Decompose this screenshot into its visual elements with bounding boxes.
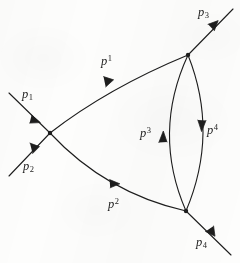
loop-line-p-sup-3 [169,55,188,211]
outgoing-line-p3 [188,9,233,55]
loop-line-p-sup-4 [186,55,203,211]
label-p-sup-4: p4 [207,123,218,136]
arrowhead-p-sup-1 [104,77,114,87]
arrowhead-p-sup-3 [159,131,167,143]
label-p-sup-3-superscript: 3 [146,125,151,135]
label-p-sup-1-superscript: 1 [107,53,112,63]
label-p2: p2 [23,160,34,174]
label-p-sup-2-superscript: 2 [114,196,119,206]
label-p4-subscript: 4 [202,240,207,250]
vertex-bottom-right [184,209,188,213]
label-p1-subscript: 1 [28,92,33,102]
arrowhead-p-sup-4 [198,120,206,132]
arrowhead-p1 [30,115,41,123]
label-p-sup-4-superscript: 4 [213,122,218,132]
label-p4: p4 [196,236,207,250]
label-p3: p3 [198,6,209,20]
label-p1: p1 [22,88,33,102]
vertex-top-right [186,53,190,57]
label-p2-subscript: 2 [29,164,34,174]
label-p-sup-1: p1 [101,54,112,67]
label-p-sup-3: p3 [140,126,151,139]
internal-line-p-sup-1 [50,55,188,133]
vertex-left [48,131,52,135]
feynman-diagram-figure: p1 p2 p3 p4 p1 p2 p3 p4 [0,0,240,263]
label-p3-subscript: 3 [204,10,209,20]
diagram-canvas [0,0,240,263]
label-p-sup-2: p2 [108,197,119,210]
